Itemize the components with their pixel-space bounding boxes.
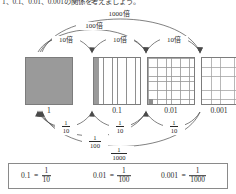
square-label-0-001: 0.001 xyxy=(195,106,236,115)
square-unit-0-1 xyxy=(93,57,141,105)
equation-0-1-equals: = xyxy=(32,172,39,181)
arrowhead-10bai-3 xyxy=(197,47,203,53)
fraction-1over10-1: 1 10 xyxy=(62,119,71,135)
fraction-1over10-3: 1 10 xyxy=(170,119,179,135)
arc-label-1over10-2: 1 10 xyxy=(109,119,131,135)
square-unit-0-001-grid xyxy=(202,58,236,104)
arc-label-10bai-1: 10倍 xyxy=(52,36,80,44)
equation-0-01: 0.01 = 1 100 xyxy=(93,167,131,185)
arc-label-1over10-3: 1 10 xyxy=(163,119,185,135)
square-label-0-01: 0.01 xyxy=(147,106,195,115)
square-label-1: 1 xyxy=(25,106,73,115)
equation-0-001-equals: = xyxy=(180,172,187,181)
square-unit-0-01-grid xyxy=(148,58,194,104)
arc-label-10bai-2: 10倍 xyxy=(106,36,134,44)
square-unit-1 xyxy=(25,57,73,105)
equation-0-01-fraction: 1 100 xyxy=(117,167,130,185)
square-unit-0-1-columns xyxy=(94,58,140,104)
equation-0-1-decimal: 0.1 xyxy=(21,172,31,181)
square-unit-1-shading xyxy=(26,58,72,104)
arc-label-1over1000: 1 1000 xyxy=(104,146,134,162)
fraction-1over100: 1 100 xyxy=(89,134,101,150)
fraction-1over1000: 1 1000 xyxy=(111,146,126,162)
square-unit-0-1-shading xyxy=(94,58,99,104)
square-label-0-1: 0.1 xyxy=(93,106,141,115)
square-unit-0-01 xyxy=(147,57,195,105)
arc-label-1over10-1: 1 10 xyxy=(55,119,77,135)
summary-box: 0.1 = 1 10 0.01 = 1 100 0.001 = xyxy=(8,163,228,189)
equation-0-01-decimal: 0.01 xyxy=(93,172,106,181)
equation-0-001: 0.001 = 1 1000 xyxy=(161,167,206,185)
arc-label-1000bai: 1000倍 xyxy=(95,10,143,18)
equation-0-001-decimal: 0.001 xyxy=(161,172,178,181)
arc-label-100bai: 100倍 xyxy=(76,22,112,30)
arrowhead-10bai-2 xyxy=(143,47,149,53)
equation-0-01-equals: = xyxy=(108,172,115,181)
arrowhead-10bai-1 xyxy=(89,47,95,53)
equation-row: 0.1 = 1 10 0.01 = 1 100 0.001 = xyxy=(9,164,227,188)
arc-label-10bai-3: 10倍 xyxy=(160,36,188,44)
square-unit-0-01-shading xyxy=(149,99,153,103)
square-unit-0-001 xyxy=(201,57,236,105)
equation-0-1: 0.1 = 1 10 xyxy=(21,167,51,185)
fraction-1over10-2: 1 10 xyxy=(116,119,125,135)
equation-0-001-fraction: 1 1000 xyxy=(189,167,206,185)
worksheet-figure: 1、0.1、0.01、0.001の関係を考えましょう。 1000倍 xyxy=(0,0,236,194)
equation-0-1-fraction: 1 10 xyxy=(42,167,51,185)
